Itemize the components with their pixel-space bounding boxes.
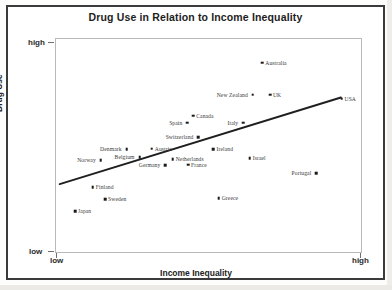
data-point-label: Switzerland (166, 134, 194, 140)
data-point-label: Spain (169, 120, 182, 126)
data-point-label: Finland (96, 184, 114, 190)
data-point (187, 163, 190, 166)
data-point (315, 172, 318, 175)
data-point-label: Norway (77, 157, 96, 163)
data-point (186, 122, 189, 125)
plot-area: AustraliaNew ZealandUKUSACanadaSpainItal… (56, 39, 361, 252)
data-point (340, 97, 343, 100)
data-point-label: USA (345, 96, 357, 102)
data-point (164, 164, 167, 167)
data-point (248, 157, 251, 160)
data-point-label: Sweden (108, 196, 126, 202)
data-point (192, 114, 195, 117)
y-tick-mark-high (48, 42, 54, 43)
data-point (125, 148, 128, 151)
y-tick-label-low: low (29, 247, 42, 256)
data-point (217, 197, 220, 200)
y-tick-label-high: high (28, 38, 45, 47)
data-point (269, 94, 272, 97)
data-point (74, 210, 77, 213)
data-point-label: Greece (222, 195, 238, 201)
scan-edge-bottom (0, 285, 392, 290)
data-point (261, 61, 264, 64)
data-point-label: Germany (139, 162, 161, 168)
data-point (251, 94, 254, 97)
data-point (242, 122, 245, 125)
data-point-label: Canada (196, 113, 213, 119)
data-point-label: Israel (253, 155, 266, 161)
data-point-label: Ireland (216, 146, 233, 152)
data-point-label: Japan (78, 208, 91, 214)
scan-edge-right (387, 0, 392, 290)
data-point (104, 198, 107, 201)
data-point-label: UK (273, 92, 281, 98)
chart-title: Drug Use in Relation to Income Inequalit… (18, 11, 373, 23)
x-axis-title: Income Inequality (0, 268, 392, 278)
plot-frame: AustraliaNew ZealandUKUSACanadaSpainItal… (55, 38, 362, 253)
data-point (92, 186, 95, 189)
data-point-label: Belgium (115, 154, 135, 160)
data-point-label: Portugal (292, 170, 312, 176)
data-point-label: Denmark (100, 146, 122, 152)
figure-root: Drug Use in Relation to Income Inequalit… (0, 0, 392, 290)
data-point-label: Italy (228, 120, 239, 126)
data-point (150, 147, 153, 150)
data-point-label: Austria (155, 146, 172, 152)
data-point (197, 136, 200, 139)
data-point (100, 159, 103, 162)
y-axis-title: Drug Use (0, 74, 4, 112)
data-point-label: Australia (265, 60, 286, 66)
y-tick-mark-low (48, 251, 54, 252)
data-point-label: France (191, 162, 207, 168)
data-point (171, 158, 174, 161)
data-point (138, 156, 141, 159)
data-point (212, 148, 215, 151)
data-point-label: New Zealand (217, 92, 248, 98)
